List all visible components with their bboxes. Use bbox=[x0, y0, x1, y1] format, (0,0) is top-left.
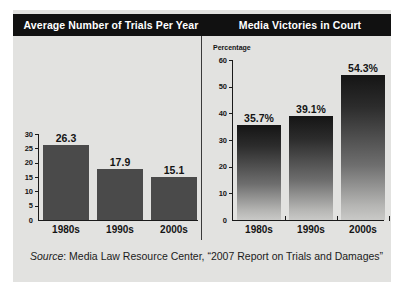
source-text: : Media Law Resource Center, “2007 Repor… bbox=[63, 250, 383, 262]
panel-title-right: Media Victories in Court bbox=[209, 14, 391, 36]
figure-root: Average Number of Trials Per Year Media … bbox=[0, 0, 403, 295]
x-axis-tick-label: 1980s bbox=[36, 224, 96, 235]
y-axis-tick bbox=[35, 177, 39, 178]
y-axis-tick bbox=[229, 87, 233, 88]
bar bbox=[43, 145, 89, 220]
chart-media-victories: Percentage 010203040506035.7%1980s39.1%1… bbox=[201, 36, 391, 240]
y-axis-tick bbox=[229, 113, 233, 114]
bar-value-label: 26.3 bbox=[41, 132, 91, 144]
y-axis-tick-label: 30 bbox=[207, 137, 227, 145]
y-axis-tick bbox=[35, 191, 39, 192]
panel-title-left: Average Number of Trials Per Year bbox=[13, 14, 209, 36]
y-axis-tick-label: 10 bbox=[13, 188, 33, 196]
y-axis-tick-label: 40 bbox=[207, 110, 227, 118]
x-axis-line bbox=[38, 220, 198, 221]
x-axis-tick-label: 1980s bbox=[229, 224, 289, 235]
y-axis-tick-label: 5 bbox=[13, 202, 33, 210]
y-axis-tick-label: 10 bbox=[207, 190, 227, 198]
y-axis-tick-label: 15 bbox=[13, 174, 33, 182]
x-axis-tick bbox=[285, 216, 286, 221]
bar bbox=[237, 125, 281, 220]
x-axis-tick bbox=[389, 216, 390, 221]
y-axis-tick bbox=[229, 167, 233, 168]
y-axis-tick-label: 0 bbox=[207, 217, 227, 225]
y-axis-tick bbox=[35, 163, 39, 164]
bar bbox=[97, 169, 143, 220]
y-axis-tick-label: 0 bbox=[13, 217, 33, 225]
x-axis-line bbox=[232, 220, 384, 221]
bar-value-label: 15.1 bbox=[149, 164, 199, 176]
x-axis-tick-label: 1990s bbox=[281, 224, 341, 235]
bar-value-label: 17.9 bbox=[95, 156, 145, 168]
bar-value-label: 35.7% bbox=[234, 112, 284, 124]
bar bbox=[341, 75, 385, 220]
y-axis-tick bbox=[35, 148, 39, 149]
x-axis-tick-label: 2000s bbox=[144, 224, 204, 235]
source-label: Source bbox=[30, 250, 63, 262]
x-axis-tick-label: 1990s bbox=[90, 224, 150, 235]
y-axis-tick bbox=[35, 206, 39, 207]
y-axis-tick bbox=[229, 140, 233, 141]
y-axis-tick-label: 30 bbox=[13, 131, 33, 139]
bar-value-label: 39.1% bbox=[286, 103, 336, 115]
chart-trials-per-year: 05101520253026.31980s17.91990s15.12000s bbox=[13, 36, 201, 240]
y-axis-tick-label: 20 bbox=[13, 159, 33, 167]
bar-value-label: 54.3% bbox=[338, 62, 388, 74]
bar bbox=[151, 177, 197, 220]
x-axis-tick bbox=[337, 216, 338, 221]
y-axis-tick bbox=[35, 134, 39, 135]
y-axis-tick-label: 50 bbox=[207, 83, 227, 91]
y-axis-tick bbox=[229, 60, 233, 61]
y-axis-tick-label: 25 bbox=[13, 145, 33, 153]
source-note: Source: Media Law Resource Center, “2007… bbox=[30, 250, 383, 262]
y-axis-tick bbox=[229, 193, 233, 194]
x-axis-tick-label: 2000s bbox=[333, 224, 393, 235]
y-axis-tick-label: 60 bbox=[207, 57, 227, 65]
header-band: Average Number of Trials Per Year Media … bbox=[13, 14, 391, 36]
y-axis-label-percentage: Percentage bbox=[213, 44, 251, 51]
bar bbox=[289, 116, 333, 220]
y-axis-tick-label: 20 bbox=[207, 163, 227, 171]
